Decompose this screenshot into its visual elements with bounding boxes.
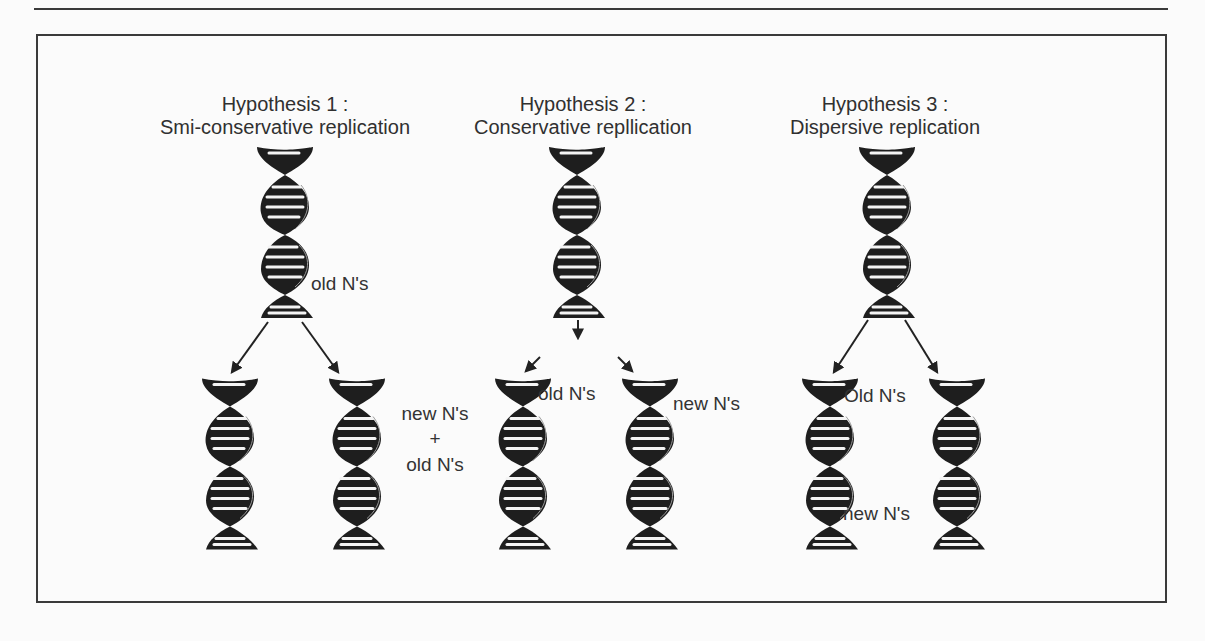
h2-parent-helix-icon bbox=[549, 147, 605, 318]
h1-daughter-left-helix-icon bbox=[202, 379, 258, 550]
h2-daughter-right-helix-icon bbox=[622, 379, 678, 550]
diagram-graphics bbox=[0, 0, 1205, 641]
h1-arrow-right-icon bbox=[302, 322, 338, 372]
h3-arrow-left-icon bbox=[834, 320, 868, 372]
h1-daughter-label-line-3: old N's bbox=[406, 454, 463, 476]
h1-daughter-right-helix-icon bbox=[329, 379, 385, 550]
h3-daughter-lower-label: new N's bbox=[843, 503, 910, 525]
h2-arrow-left-icon bbox=[526, 357, 540, 371]
h3-parent-helix-icon bbox=[859, 147, 915, 318]
h1-daughter-label-line-1: new N's bbox=[402, 403, 469, 425]
h1-daughter-label-line-2: + bbox=[429, 428, 440, 450]
h3-arrow-right-icon bbox=[905, 320, 937, 372]
h1-parent-label: old N's bbox=[311, 273, 368, 295]
h1-parent-helix-icon bbox=[257, 147, 313, 318]
h2-arrow-right-icon bbox=[618, 357, 632, 371]
h3-daughter-right-helix-icon bbox=[929, 379, 985, 550]
h3-daughter-upper-label: Old N's bbox=[844, 385, 906, 407]
h2-daughter-left-label: old N's bbox=[538, 383, 595, 405]
h2-daughter-right-label: new N's bbox=[673, 393, 740, 415]
h1-arrow-left-icon bbox=[232, 322, 268, 372]
